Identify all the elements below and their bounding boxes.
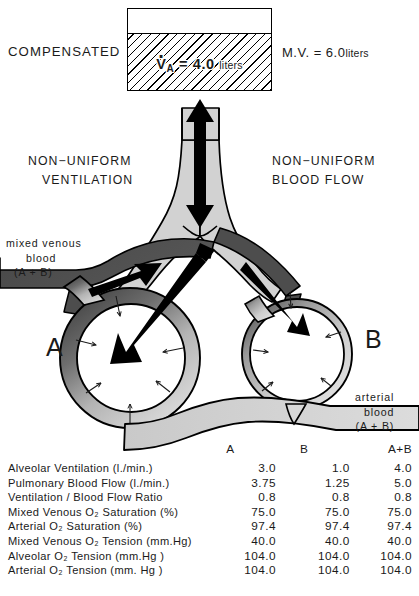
table-row: Ventilation / Blood Flow Ratio 0.8 0.8 0… bbox=[8, 490, 412, 505]
row-label: Arterial O₂ Tension (mm. Hg ) bbox=[8, 563, 224, 578]
row-value-ab: 97.4 bbox=[362, 519, 412, 534]
row-value-b: 0.8 bbox=[298, 490, 362, 505]
physiology-data-table: A B A+B Alveolar Ventilation (l./min.) 3… bbox=[8, 440, 412, 578]
ventilation-box-dead-space bbox=[128, 9, 271, 34]
mixed-venous-blood-label: mixed venous blood (A + B) bbox=[6, 236, 82, 280]
row-value-b: 1.0 bbox=[298, 461, 362, 476]
table-row: Mixed Venous O₂ Saturation (%) 75.0 75.0… bbox=[8, 505, 412, 520]
row-value-a: 0.8 bbox=[224, 490, 298, 505]
mixed-venous-line2: blood bbox=[6, 251, 82, 266]
row-value-ab: 0.8 bbox=[362, 490, 412, 505]
row-value-b: 104.0 bbox=[298, 563, 362, 578]
table-row: Alveolar Ventilation (l./min.) 3.0 1.0 4… bbox=[8, 461, 412, 476]
row-value-ab: 4.0 bbox=[362, 461, 412, 476]
header-blank bbox=[8, 440, 224, 461]
row-value-ab: 104.0 bbox=[362, 563, 412, 578]
arterial-line3: (A + B) bbox=[355, 419, 394, 434]
nonuniform-ventilation-line2: VENTILATION bbox=[28, 171, 133, 190]
row-label: Alveolar Ventilation (l./min.) bbox=[8, 461, 224, 476]
row-label: Pulmonary Blood Flow (l./min.) bbox=[8, 476, 224, 491]
va-subscript: A bbox=[167, 63, 175, 74]
row-value-a: 40.0 bbox=[224, 534, 298, 549]
row-value-a: 97.4 bbox=[224, 519, 298, 534]
row-value-ab: 75.0 bbox=[362, 505, 412, 520]
table-row: Pulmonary Blood Flow (l./min.) 3.75 1.25… bbox=[8, 476, 412, 491]
table-row: Alveolar O₂ Tension (mm.Hg ) 104.0 104.0… bbox=[8, 549, 412, 564]
row-value-a: 104.0 bbox=[224, 563, 298, 578]
row-value-b: 75.0 bbox=[298, 505, 362, 520]
row-value-a: 75.0 bbox=[224, 505, 298, 520]
va-units: liters bbox=[219, 59, 242, 71]
mv-value: 6.0 bbox=[326, 45, 346, 60]
row-value-ab: 5.0 bbox=[362, 476, 412, 491]
region-a-letter: A bbox=[46, 333, 63, 362]
table-row: Mixed Venous O₂ Tension (mm.Hg) 40.0 40.… bbox=[8, 534, 412, 549]
va-value: = 4.0 bbox=[179, 56, 215, 72]
row-value-b: 40.0 bbox=[298, 534, 362, 549]
row-value-ab: 104.0 bbox=[362, 549, 412, 564]
header-b: B bbox=[298, 440, 362, 461]
table-header-row: A B A+B bbox=[8, 440, 412, 461]
row-label: Ventilation / Blood Flow Ratio bbox=[8, 490, 224, 505]
header-a: A bbox=[224, 440, 298, 461]
mv-text: M.V. = bbox=[282, 45, 322, 60]
row-value-a: 3.75 bbox=[224, 476, 298, 491]
row-label: Mixed Venous O₂ Saturation (%) bbox=[8, 505, 224, 520]
va-symbol: V bbox=[156, 56, 166, 72]
arterial-blood-label: arterial blood (A + B) bbox=[355, 390, 394, 434]
alveolar-ventilation-box: VA = 4.0 liters bbox=[127, 8, 272, 91]
header-ab: A+B bbox=[362, 440, 412, 461]
table-header: A B A+B bbox=[8, 440, 412, 461]
row-value-b: 97.4 bbox=[298, 519, 362, 534]
region-b-letter: B bbox=[365, 325, 382, 354]
nonuniform-ventilation-label: NON−UNIFORM VENTILATION bbox=[28, 152, 133, 190]
row-value-b: 104.0 bbox=[298, 549, 362, 564]
row-value-a: 3.0 bbox=[224, 461, 298, 476]
table-row: Arterial O₂ Tension (mm. Hg ) 104.0 104.… bbox=[8, 563, 412, 578]
mixed-venous-line3: (A + B) bbox=[6, 265, 82, 280]
nonuniform-bloodflow-label: NON−UNIFORM BLOOD FLOW bbox=[272, 152, 375, 190]
arterial-line2: blood bbox=[355, 405, 394, 420]
mixed-venous-line1: mixed venous bbox=[6, 236, 82, 251]
mv-units: liters bbox=[345, 47, 368, 59]
arterial-line1: arterial bbox=[355, 390, 394, 405]
row-label: Mixed Venous O₂ Tension (mm.Hg) bbox=[8, 534, 224, 549]
row-value-b: 1.25 bbox=[298, 476, 362, 491]
row-label: Alveolar O₂ Tension (mm.Hg ) bbox=[8, 549, 224, 564]
nonuniform-bloodflow-line2: BLOOD FLOW bbox=[272, 171, 375, 190]
table-body: Alveolar Ventilation (l./min.) 3.0 1.0 4… bbox=[8, 461, 412, 578]
va-label: VA = 4.0 liters bbox=[128, 56, 271, 74]
compensated-label: COMPENSATED bbox=[8, 44, 120, 59]
nonuniform-ventilation-line1: NON−UNIFORM bbox=[28, 152, 133, 171]
row-label: Arterial O₂ Saturation (%) bbox=[8, 519, 224, 534]
nonuniform-bloodflow-line1: NON−UNIFORM bbox=[272, 152, 375, 171]
row-value-a: 104.0 bbox=[224, 549, 298, 564]
row-value-ab: 40.0 bbox=[362, 534, 412, 549]
table-row: Arterial O₂ Saturation (%) 97.4 97.4 97.… bbox=[8, 519, 412, 534]
minute-volume-label: M.V. = 6.0liters bbox=[282, 45, 369, 60]
alveolus-region-b bbox=[242, 292, 352, 415]
